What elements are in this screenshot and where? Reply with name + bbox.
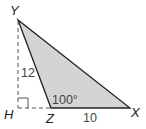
vertex-label-z: Z [45, 111, 55, 126]
right-angle-marker [18, 98, 28, 108]
vertex-label-x: X [130, 105, 141, 120]
triangle-diagram: Y H Z X 12 100° 10 [0, 0, 146, 129]
angle-label-100: 100° [52, 93, 78, 107]
vertex-label-h: H [4, 107, 14, 122]
base-label-10: 10 [83, 111, 97, 125]
vertex-label-y: Y [10, 3, 20, 18]
height-label-12: 12 [21, 66, 35, 80]
